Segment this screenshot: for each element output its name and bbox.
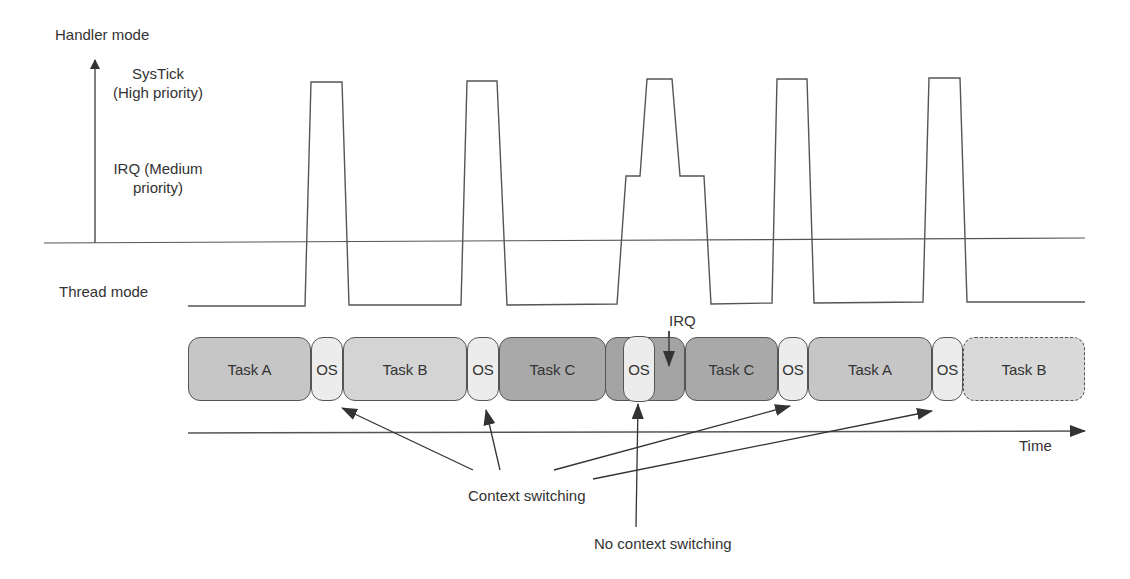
- context-switching-label: Context switching: [468, 486, 586, 505]
- mode-separator-line: [44, 238, 1085, 243]
- execution-level-waveform: [188, 78, 1085, 306]
- no-context-switching-arrow: [636, 404, 638, 527]
- timeline-task-a-1: Task A: [188, 337, 311, 401]
- timeline-task-c-1: Task C: [499, 337, 606, 401]
- time-axis: [188, 431, 1085, 433]
- systick-label-line1: SysTick: [103, 64, 213, 83]
- thread-mode-label: Thread mode: [59, 282, 148, 301]
- time-axis-label: Time: [1019, 436, 1052, 455]
- timeline-os-4: OS: [932, 337, 963, 401]
- irq-marker-label: IRQ: [669, 311, 696, 330]
- irq-priority-label-line2: priority): [101, 178, 215, 197]
- timeline-task-b-future: Task B: [963, 337, 1085, 401]
- systick-label-line2: (High priority): [103, 83, 213, 102]
- timeline-task-b-1: Task B: [343, 337, 467, 401]
- timeline-task-a-2: Task A: [808, 337, 932, 401]
- timeline-task-c-2: Task C: [685, 337, 778, 401]
- timeline-os-3: OS: [778, 337, 808, 401]
- irq-priority-label-line1: IRQ (Medium: [101, 159, 215, 178]
- timeline-os-1: OS: [311, 337, 343, 401]
- timeline-os-in-irq: OS: [623, 336, 655, 402]
- systick-label: SysTick (High priority): [103, 64, 213, 102]
- timeline-os-2: OS: [467, 337, 499, 401]
- handler-mode-label: Handler mode: [55, 25, 149, 44]
- irq-priority-label: IRQ (Medium priority): [101, 159, 215, 197]
- no-context-switching-label: No context switching: [594, 534, 732, 553]
